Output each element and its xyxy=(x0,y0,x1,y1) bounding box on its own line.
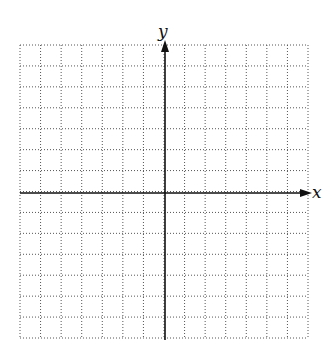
dotted-grid xyxy=(20,45,308,338)
x-axis-arrow-icon xyxy=(300,189,312,197)
y-axis-label: y xyxy=(157,21,168,41)
y-axis-arrow-icon xyxy=(161,40,169,52)
x-axis-label: x xyxy=(312,182,322,202)
coordinate-grid: x y xyxy=(0,0,330,349)
